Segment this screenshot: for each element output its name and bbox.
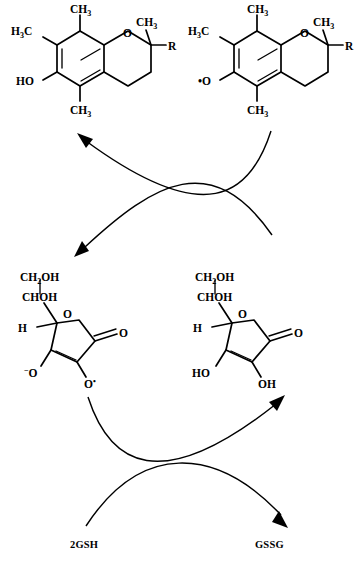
scheme-canvas: CH3 H3C HO CH3 O CH3 R CH3 H3C •O CH3 O … [0, 0, 355, 571]
label-ascorbate-hydroxyl-right: OH [258, 378, 276, 390]
label-radical-c7-methyl: H3C [188, 25, 209, 40]
label-tocopherol-side-chain: R [168, 40, 177, 52]
label-ascorbyl-ring-oxygen: O [63, 308, 72, 320]
label-ascorbyl-carbinol: CHOH [22, 291, 57, 303]
arrowhead-lower-upper-right [269, 395, 285, 411]
upper-arc-lower [85, 183, 272, 247]
label-radical-c5-methyl: CH3 [247, 104, 268, 119]
label-ascorbate-carbonyl-oxygen: O [294, 327, 303, 339]
upper-cycle-arrows [74, 131, 272, 257]
label-tocopherol-ring-oxygen: O [123, 27, 132, 39]
label-radical-phenoxyl: •O [198, 75, 211, 87]
lower-cycle-arrows [86, 395, 288, 528]
label-oxidized-glutathione: GSSG [255, 539, 284, 550]
label-ascorbate-hydroxyl-left: HO [192, 367, 210, 379]
label-tocopherol-c5-methyl: CH3 [70, 104, 91, 119]
label-radical-side-chain: R [345, 40, 354, 52]
label-ascorbyl-enolate-left: −O [24, 366, 38, 379]
arrowhead-upper-lower-left [74, 241, 89, 257]
label-tocopherol-phenol: HO [16, 75, 34, 87]
label-ascorbyl-hydrogen: H [18, 322, 27, 334]
label-ascorbate-carbinol: CHOH [197, 291, 232, 303]
lower-arc-upper [88, 397, 276, 461]
label-radical-ring-oxygen: O [300, 27, 309, 39]
lower-arc-lower [86, 463, 281, 526]
label-ascorbate-hydrogen: H [193, 322, 202, 334]
label-tocopherol-c7-methyl: H3C [11, 25, 32, 40]
label-radical-c2-methyl: CH3 [313, 16, 334, 31]
label-ascorbate-ring-oxygen: O [238, 308, 247, 320]
label-reduced-glutathione: 2GSH [70, 539, 98, 550]
label-ascorbate-hydroxymethyl: CH2OH [195, 271, 234, 286]
reaction-scheme-diagram: CH3 H3C HO CH3 O CH3 R CH3 H3C •O CH3 O … [0, 0, 355, 571]
label-ascorbyl-hydroxymethyl: CH2OH [20, 271, 59, 286]
label-tocopherol-c2-methyl: CH3 [136, 16, 157, 31]
label-ascorbyl-enolate-right: O• [84, 377, 96, 390]
cut-off-caption-strip [0, 558, 355, 571]
arrowhead-lower-lower-right [272, 511, 288, 528]
label-ascorbyl-carbonyl-oxygen: O [119, 327, 128, 339]
arrowhead-upper-left [77, 133, 93, 148]
